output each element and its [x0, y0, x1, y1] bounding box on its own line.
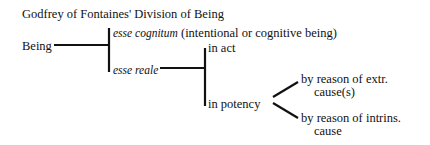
branch-intrins — [273, 103, 298, 118]
node-intrins-cause-line1: by reason of intrins. — [301, 111, 401, 125]
node-extr-cause-line2: cause(s) — [314, 85, 355, 99]
diagram-title: Godfrey of Fontaines' Division of Being — [22, 7, 224, 21]
node-extr-cause-line1: by reason of extr. — [301, 72, 388, 86]
node-intrins-cause-line2: cause — [314, 124, 342, 138]
node-esse-cognitum: esse cognitum (intentional or cognitive … — [113, 26, 337, 40]
node-in-act: in act — [208, 41, 235, 55]
node-being: Being — [22, 39, 52, 53]
node-esse-cognitum-gloss: (intentional or cognitive being) — [178, 26, 337, 40]
node-esse-reale: esse reale — [113, 63, 158, 77]
node-esse-cognitum-term: esse cognitum — [113, 27, 178, 39]
branch-extr — [273, 82, 298, 97]
node-in-potency: in potency — [208, 97, 260, 111]
node-esse-reale-term: esse reale — [113, 64, 158, 76]
